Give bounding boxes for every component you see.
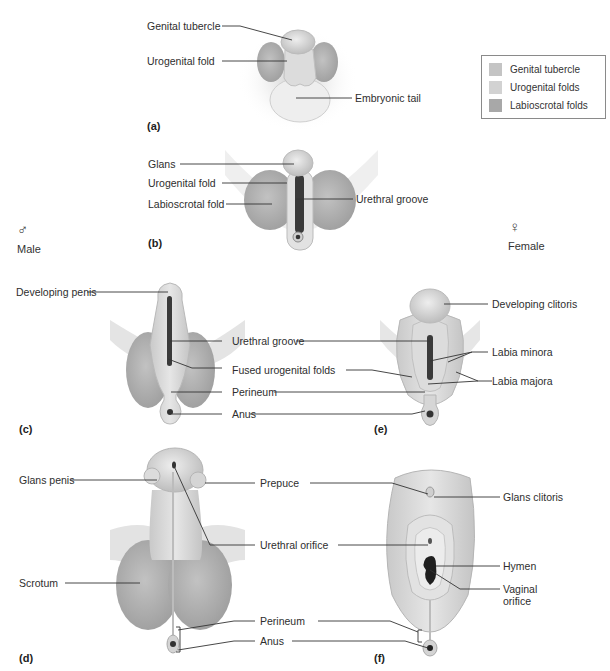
label-developing-penis: Developing penis bbox=[16, 286, 97, 298]
panel-letter-c: (c) bbox=[19, 423, 32, 435]
panel-e-drawing bbox=[380, 289, 480, 426]
female-label: Female bbox=[508, 240, 545, 252]
label-perineum-d-f: Perineum bbox=[260, 615, 305, 627]
panel-letter-e: (e) bbox=[374, 423, 387, 435]
label-urethral-groove-c-e: Urethral groove bbox=[232, 335, 304, 347]
label-urogenital-fold: Urogenital fold bbox=[147, 55, 215, 67]
label-glans-clitoris: Glans clitoris bbox=[503, 491, 563, 503]
label-labia-majora: Labia majora bbox=[492, 375, 553, 387]
male-symbol-icon: ♂ bbox=[17, 222, 28, 237]
label-anus-c-e: Anus bbox=[232, 408, 256, 420]
label-fused-urogenital-folds: Fused urogenital folds bbox=[232, 364, 335, 376]
female-symbol-icon: ♀ bbox=[509, 219, 520, 234]
panel-a-drawing bbox=[238, 28, 358, 132]
panel-letter-f: (f) bbox=[374, 652, 385, 664]
legend: Genital tubercle Urogenital folds Labios… bbox=[481, 55, 606, 119]
legend-swatch bbox=[489, 99, 502, 112]
panel-letter-d: (d) bbox=[19, 652, 33, 664]
panel-letter-a: (a) bbox=[147, 120, 160, 132]
label-urethral-groove-b: Urethral groove bbox=[356, 193, 428, 205]
label-glans: Glans bbox=[148, 158, 175, 170]
label-developing-clitoris: Developing clitoris bbox=[492, 298, 577, 310]
label-labia-minora: Labia minora bbox=[492, 346, 553, 358]
legend-label: Urogenital folds bbox=[510, 81, 579, 94]
label-urogenital-fold-b: Urogenital fold bbox=[148, 177, 216, 189]
label-labioscrotal-fold: Labioscrotal fold bbox=[148, 198, 224, 210]
label-urethral-orifice: Urethral orifice bbox=[260, 539, 328, 551]
panel-f-drawing bbox=[387, 470, 475, 656]
label-genital-tubercle: Genital tubercle bbox=[147, 20, 221, 32]
label-embryonic-tail: Embryonic tail bbox=[355, 92, 421, 104]
label-anus-d-f: Anus bbox=[260, 635, 284, 647]
legend-swatch bbox=[489, 63, 502, 76]
label-perineum-c-e: Perineum bbox=[232, 386, 277, 398]
label-prepuce: Prepuce bbox=[260, 477, 299, 489]
label-scrotum: Scrotum bbox=[19, 577, 58, 589]
legend-label: Genital tubercle bbox=[510, 63, 580, 76]
label-glans-penis: Glans penis bbox=[19, 474, 74, 486]
label-vaginal-orifice: Vaginal orifice bbox=[503, 583, 563, 607]
panel-c-drawing bbox=[110, 283, 245, 424]
male-label: Male bbox=[17, 243, 41, 255]
panel-letter-b: (b) bbox=[148, 237, 162, 249]
legend-swatch bbox=[489, 81, 502, 94]
legend-label: Labioscrotal folds bbox=[510, 99, 588, 112]
label-hymen: Hymen bbox=[503, 560, 536, 572]
